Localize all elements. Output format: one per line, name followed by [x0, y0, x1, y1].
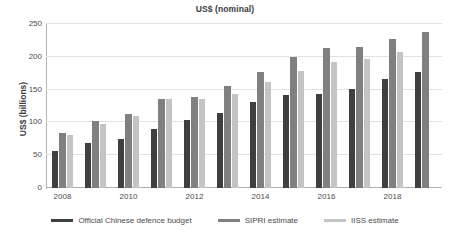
y-axis-tick-label: 150	[29, 84, 42, 93]
bar-group	[79, 24, 112, 188]
bar	[52, 151, 58, 188]
plot-area: 050100150200250	[46, 24, 442, 188]
bar	[184, 120, 190, 188]
x-axis-tick-label: 2016	[318, 192, 336, 201]
bar	[331, 62, 337, 188]
y-axis-tick-label: 200	[29, 51, 42, 60]
bar-group	[145, 24, 178, 188]
bar	[415, 72, 421, 188]
bar	[85, 143, 91, 188]
bar	[316, 94, 322, 188]
bar-group	[244, 24, 277, 188]
legend-item[interactable]: SIPRI estimate	[218, 216, 298, 225]
y-axis-tick-label: 50	[33, 150, 42, 159]
legend-label: IISS estimate	[351, 216, 399, 225]
bar	[356, 47, 362, 188]
legend-item[interactable]: Official Chinese defence budget	[51, 216, 191, 225]
bars-layer	[46, 24, 442, 188]
y-axis-tick-label: 0	[38, 183, 42, 192]
bar	[257, 72, 263, 188]
legend-swatch	[51, 219, 73, 222]
bar	[158, 99, 164, 188]
bar-group	[277, 24, 310, 188]
y-axis-tick-label: 250	[29, 19, 42, 28]
x-axis-tick-labels: 200820102012201420162018	[46, 192, 442, 206]
y-axis-title: US$ (billions)	[18, 54, 28, 164]
x-axis-tick-label: 2014	[252, 192, 270, 201]
bar	[92, 121, 98, 188]
bar	[298, 71, 304, 188]
bar-group	[178, 24, 211, 188]
bar-group	[409, 24, 442, 188]
bar	[232, 94, 238, 188]
bar	[422, 32, 428, 188]
bar-group	[376, 24, 409, 188]
bar-group	[46, 24, 79, 188]
bar	[125, 114, 131, 188]
bar	[199, 99, 205, 188]
bar	[323, 48, 329, 188]
bar	[217, 113, 223, 188]
bar	[118, 139, 124, 188]
bar	[397, 52, 403, 188]
chart-title: US$ (nominal)	[0, 4, 450, 14]
x-axis-tick-label: 2008	[54, 192, 72, 201]
bar-group	[310, 24, 343, 188]
bar	[151, 129, 157, 188]
bar	[265, 82, 271, 188]
bar	[250, 102, 256, 188]
x-axis-tick-label: 2012	[186, 192, 204, 201]
bar	[67, 135, 73, 188]
legend-label: Official Chinese defence budget	[78, 216, 191, 225]
bar	[224, 86, 230, 188]
bar	[59, 133, 65, 188]
x-axis-tick-label: 2018	[384, 192, 402, 201]
bar	[290, 57, 296, 188]
legend-label: SIPRI estimate	[245, 216, 298, 225]
bar	[191, 97, 197, 188]
bar-group	[112, 24, 145, 188]
bar	[382, 79, 388, 188]
chart-legend: Official Chinese defence budgetSIPRI est…	[0, 216, 450, 225]
x-axis-tick-label: 2010	[120, 192, 138, 201]
bar	[389, 39, 395, 188]
chart-container: US$ (nominal) US$ (billions) 05010015020…	[0, 0, 450, 240]
bar	[133, 116, 139, 188]
bar	[283, 95, 289, 188]
bar-group	[343, 24, 376, 188]
bar	[166, 99, 172, 188]
bar	[349, 89, 355, 188]
legend-swatch	[218, 219, 240, 222]
y-axis-tick-label: 100	[29, 117, 42, 126]
bar	[100, 124, 106, 188]
bar-group	[211, 24, 244, 188]
legend-item[interactable]: IISS estimate	[324, 216, 399, 225]
bar	[364, 59, 370, 188]
legend-swatch	[324, 219, 346, 222]
